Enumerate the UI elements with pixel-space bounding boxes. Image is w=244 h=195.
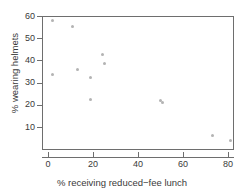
x-axis-tick-label: 40 [118,160,158,169]
x-axis-title: % receiving reduced−fee lunch [0,178,244,188]
x-axis-tick [93,152,94,157]
y-axis-tick [37,127,42,128]
x-axis-tick-label: 0 [28,160,68,169]
y-axis-title: % wearing helmets [10,3,20,143]
x-axis-tick [138,152,139,157]
y-axis-tick [37,83,42,84]
x-axis-line [42,157,234,158]
x-axis-tick-label: 60 [163,160,203,169]
plot-area-frame [42,16,234,150]
y-axis-tick [37,60,42,61]
y-axis-tick [37,105,42,106]
x-axis-tick-label: 20 [73,160,113,169]
x-axis-tick [183,152,184,157]
y-axis-tick [37,38,42,39]
x-axis-tick [228,152,229,157]
scatter-plot-figure: 605040302010 020406080 % receiving reduc… [0,0,244,195]
x-axis-tick-label: 80 [208,160,244,169]
x-axis-tick [48,152,49,157]
y-axis-tick [37,16,42,17]
